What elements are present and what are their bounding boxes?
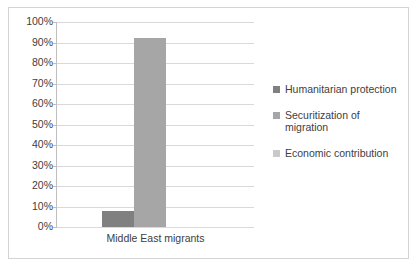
legend-item[interactable]: Humanitarian protection bbox=[273, 83, 405, 96]
legend-item[interactable]: Economic contribution bbox=[273, 147, 405, 160]
y-axis-tick-labels: 100%90%80%70%60%50%40%30%20%10%0% bbox=[9, 22, 53, 227]
y-axis-tick-label: 90% bbox=[11, 37, 53, 48]
gridline bbox=[57, 227, 254, 228]
y-axis-tick-label: 0% bbox=[11, 221, 53, 232]
legend-swatch-icon bbox=[273, 86, 280, 93]
y-axis-tick-label: 20% bbox=[11, 180, 53, 191]
y-axis-tick-label: 40% bbox=[11, 139, 53, 150]
y-axis-tick-label: 70% bbox=[11, 78, 53, 89]
legend-swatch-icon bbox=[273, 112, 280, 119]
legend-item[interactable]: Securitization of migration bbox=[273, 109, 405, 134]
x-axis-category-label: Middle East migrants bbox=[57, 232, 254, 244]
y-axis-tick-label: 50% bbox=[11, 119, 53, 130]
bar bbox=[134, 38, 166, 227]
legend-label: Securitization of migration bbox=[285, 109, 405, 134]
bar bbox=[102, 211, 134, 227]
gridline bbox=[57, 22, 254, 23]
y-axis-tick-label: 30% bbox=[11, 160, 53, 171]
legend-label: Humanitarian protection bbox=[285, 83, 396, 96]
y-axis-tick-label: 60% bbox=[11, 98, 53, 109]
chart-legend: Humanitarian protectionSecuritization of… bbox=[273, 83, 405, 172]
plot-area bbox=[57, 22, 254, 227]
legend-label: Economic contribution bbox=[285, 147, 388, 160]
y-axis-tick-label: 100% bbox=[11, 16, 53, 27]
y-axis-tick-label: 80% bbox=[11, 57, 53, 68]
chart-container: 100%90%80%70%60%50%40%30%20%10%0% Middle… bbox=[8, 7, 409, 259]
legend-swatch-icon bbox=[273, 150, 280, 157]
y-axis-tick-label: 10% bbox=[11, 201, 53, 212]
